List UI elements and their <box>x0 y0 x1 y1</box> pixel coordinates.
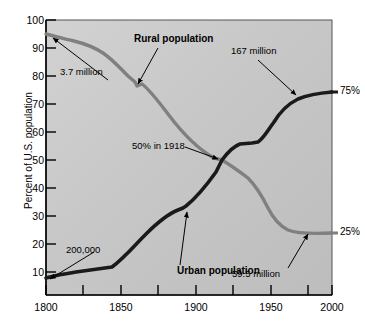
chart-figure: Percent of U.S. population 100 90 80 70 … <box>0 0 365 327</box>
endpoint-label-25-percent: 25% <box>340 226 360 237</box>
annotation-50-percent-in-1918: 50% in 1918 <box>132 140 185 151</box>
series-label-rural-population: Rural population <box>134 33 213 44</box>
chart-svg <box>0 0 365 327</box>
endpoint-label-75-percent: 75% <box>340 85 360 96</box>
annotation-59.5-million: 59.5 million <box>232 268 280 279</box>
annotation-200000: 200,000 <box>66 244 100 255</box>
annotation-167-million: 167 million <box>231 45 276 56</box>
annotation-3.7-million: 3.7 million <box>60 66 103 77</box>
